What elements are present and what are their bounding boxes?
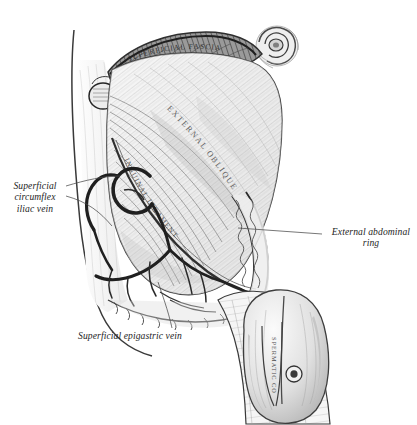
label-superficial-epigastric-vein: Superficial epigastric vein xyxy=(78,330,268,341)
label-external-abdominal-ring: External abdominal ring xyxy=(325,226,417,249)
anatomical-plate: · · · xyxy=(0,0,417,425)
label-superficial-circumflex-iliac-vein: Superficial circumflex iliac vein xyxy=(2,180,68,214)
